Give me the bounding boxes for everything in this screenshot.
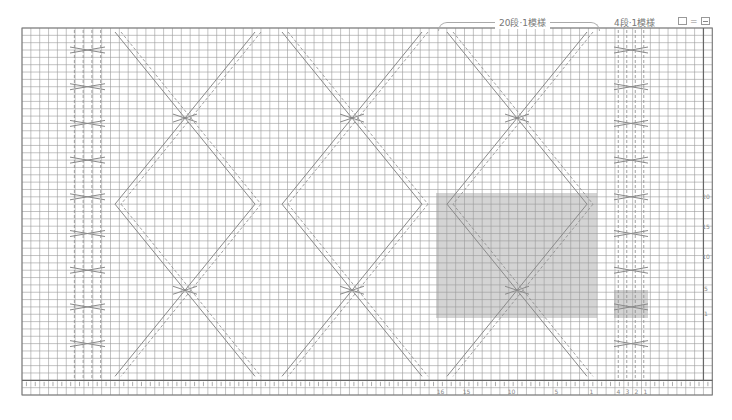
knitting-chart: 20段·1模様 4段·1模様 = 20151051 161510514321 (0, 0, 732, 420)
column-number: 15 (462, 388, 471, 395)
column-number: 1 (587, 388, 596, 395)
column-number: 5 (552, 388, 561, 395)
column-number: 10 (507, 388, 516, 395)
column-number: 2 (632, 388, 641, 395)
purl-stitch-icon (701, 17, 710, 25)
row-number: 1 (700, 310, 712, 317)
column-number: 3 (623, 388, 632, 395)
legend: = (678, 16, 710, 26)
chart-grid (0, 0, 732, 420)
column-number: 16 (436, 388, 445, 395)
legend-equals: = (690, 16, 698, 26)
column-number: 1 (641, 388, 650, 395)
row-number: 5 (700, 285, 712, 292)
row-number: 15 (700, 223, 712, 230)
row-number: 20 (700, 193, 712, 200)
repeat-label-20-rows: 20段·1模様 (495, 16, 550, 29)
column-number: 4 (614, 388, 623, 395)
repeat-label-4-rows: 4段·1模様 (614, 16, 655, 29)
knit-stitch-icon (678, 17, 687, 25)
row-number: 10 (700, 253, 712, 260)
